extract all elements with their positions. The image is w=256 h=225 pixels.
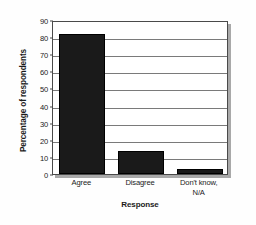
y-axis-tick-labels: 0102030405060708090 (22, 21, 48, 175)
y-tick-label-20: 20 (22, 136, 48, 145)
bar-chart-figure: Percentage of respondents 01020304050607… (0, 0, 256, 225)
x-tick-label-1: Disagree (111, 178, 170, 188)
x-tick-label-line: N/A (169, 188, 228, 198)
y-tick-label-70: 70 (22, 51, 48, 60)
x-tick-label-line: Disagree (111, 178, 170, 188)
y-tick-label-60: 60 (22, 68, 48, 77)
bar-2 (177, 169, 223, 174)
x-tick-label-line: Don't know, (169, 178, 228, 188)
y-tick-label-10: 10 (22, 153, 48, 162)
y-tick-label-30: 30 (22, 119, 48, 128)
x-tick-label-line: Agree (52, 178, 111, 188)
plot-area (52, 21, 228, 175)
x-axis-tick-labels: AgreeDisagreeDon't know,N/A (52, 178, 228, 202)
x-tick-label-0: Agree (52, 178, 111, 188)
y-tick-label-90: 90 (22, 17, 48, 26)
y-tick-label-40: 40 (22, 102, 48, 111)
x-tick-label-2: Don't know,N/A (169, 178, 228, 197)
bar-1 (118, 151, 164, 174)
y-tick-label-80: 80 (22, 34, 48, 43)
y-tick-label-50: 50 (22, 85, 48, 94)
y-tick-label-0: 0 (22, 171, 48, 180)
x-axis-title: Response (52, 200, 228, 209)
bar-0 (59, 34, 105, 174)
